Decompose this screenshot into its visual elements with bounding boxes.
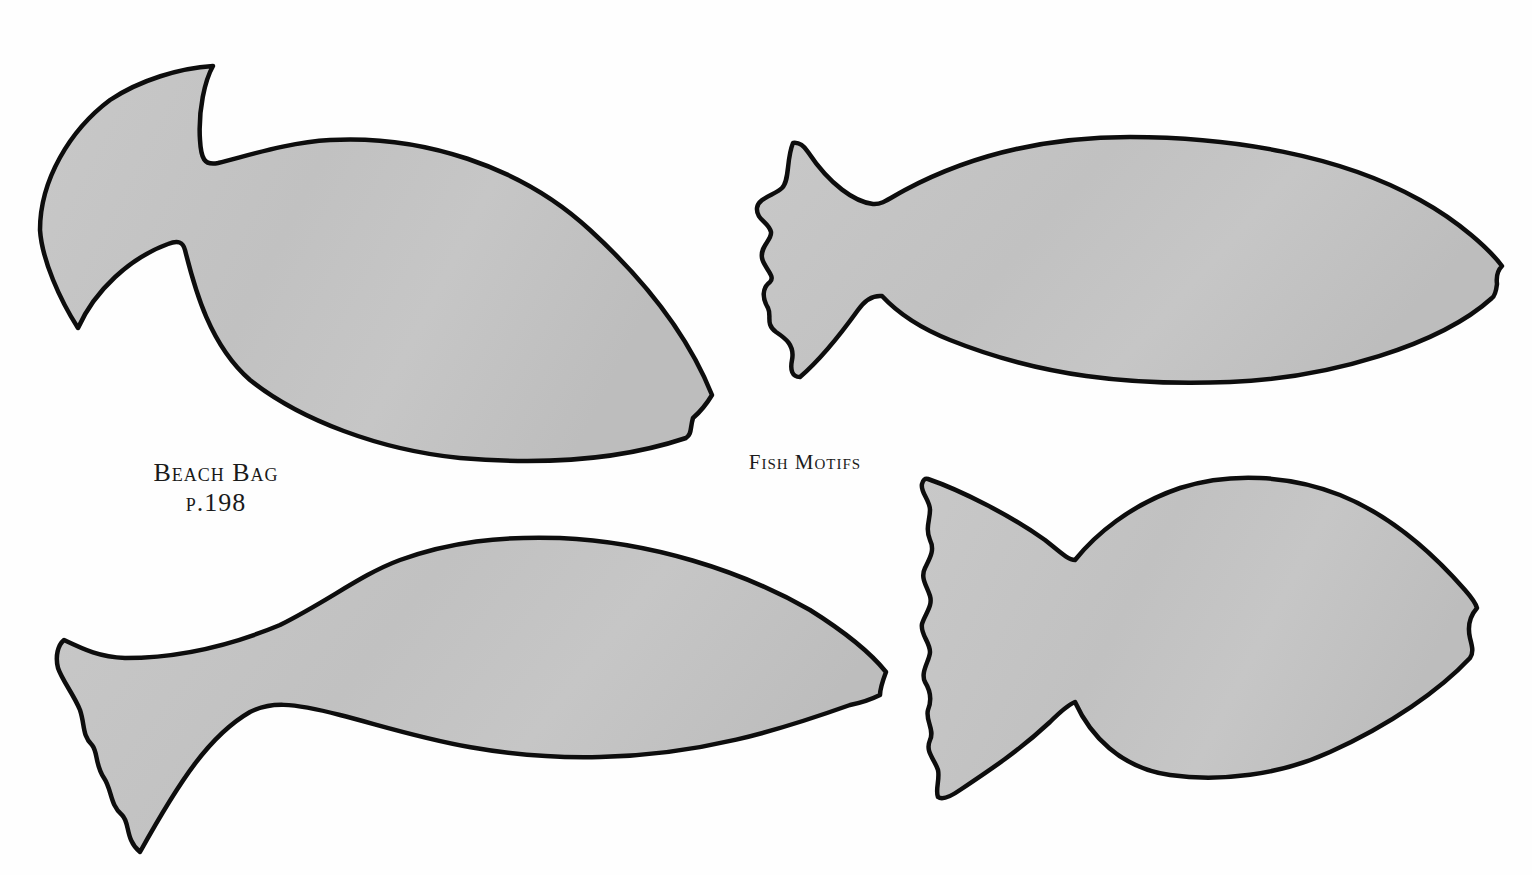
fish-icon-oval-ruffled-tail <box>757 137 1502 383</box>
fish-icon-hooked-tail <box>40 66 712 461</box>
template-page: Beach Bag p.198 Fish Motifs <box>0 0 1532 875</box>
project-label: Beach Bag p.198 <box>116 458 316 518</box>
fish-icon-arched-swept-tail <box>57 538 886 852</box>
fish-templates <box>0 0 1532 875</box>
page-reference: p.198 <box>116 488 316 518</box>
motif-title: Fish Motifs <box>720 449 890 475</box>
fish-icon-round-scalloped-tail <box>922 478 1477 798</box>
project-name: Beach Bag <box>153 458 278 487</box>
